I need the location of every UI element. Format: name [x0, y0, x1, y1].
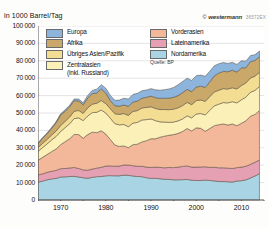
legend-column-right: VorderasienLateinamerikaNordamerika [150, 28, 209, 61]
legend-item[interactable]: Zentralasien (inkl. Russland) [46, 61, 124, 77]
copyright-symbol: © [203, 14, 207, 20]
x-axis-tick-label: 1970 [53, 204, 68, 211]
legend-swatch [150, 50, 167, 59]
chart-figure: in 1000 Barrel/Tag © westermann 36572EX … [0, 0, 269, 228]
publisher-name: westermann [208, 14, 242, 20]
legend-item[interactable]: Vorderasien [150, 28, 209, 38]
y-axis-tick-label: 40 000 [0, 126, 35, 133]
y-axis-tick-label: 30 000 [0, 144, 35, 151]
legend-label: Nordamerika [171, 50, 206, 58]
legend-label: Zentralasien (inkl. Russland) [67, 61, 109, 77]
legend-item[interactable]: Lateinamerika [150, 39, 209, 49]
legend-item[interactable]: Europa [46, 28, 124, 38]
y-axis-tick-label: 10 000 [0, 179, 35, 186]
x-axis-tick-label: 2000 [189, 204, 204, 211]
x-axis-tick-label: 1980 [98, 204, 113, 211]
x-axis-tick-label: 2010 [234, 204, 249, 211]
legend-label: Vorderasien [171, 28, 203, 36]
y-axis-tick-label: 60 000 [0, 92, 35, 99]
y-axis-title: in 1000 Barrel/Tag [4, 12, 63, 19]
legend-label: Afrika [67, 39, 82, 47]
legend-swatch [150, 39, 167, 48]
legend-item[interactable]: Nordamerika [150, 50, 209, 60]
legend-label: Lateinamerika [171, 39, 209, 47]
legend-swatch [46, 29, 63, 38]
legend-swatch [46, 39, 63, 48]
y-axis-tick-label: 20 000 [0, 161, 35, 168]
legend-label: Übriges Asien/Pazifik [67, 50, 124, 58]
y-axis-tick-label: 0 [0, 196, 35, 203]
legend-column-left: EuropaAfrikaÜbriges Asien/PazifikZentral… [46, 28, 124, 78]
y-axis-tick-label: 80 000 [0, 57, 35, 64]
legend-item[interactable]: Afrika [46, 39, 124, 49]
legend-item[interactable]: Übriges Asien/Pazifik [46, 50, 124, 60]
legend-swatch [46, 61, 63, 70]
legend-label: Europa [67, 28, 87, 36]
source-note: Quelle: BP [150, 59, 174, 65]
legend-swatch [150, 29, 167, 38]
y-axis-tick-label: 90 000 [0, 39, 35, 46]
copyright-credit: © westermann 36572EX [203, 14, 266, 20]
y-axis-tick-label: 50 000 [0, 109, 35, 116]
y-axis-tick-label: 70 000 [0, 74, 35, 81]
figure-code: 36572EX [246, 15, 266, 20]
y-axis-tick-label: 100 000 [0, 22, 35, 29]
x-axis-tick-label: 1990 [143, 204, 158, 211]
legend-swatch [46, 50, 63, 59]
